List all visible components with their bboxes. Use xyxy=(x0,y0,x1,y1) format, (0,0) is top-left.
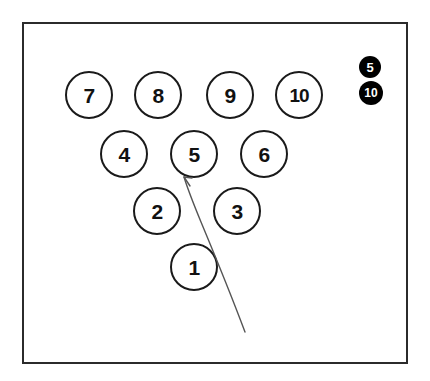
marker-label: 5 xyxy=(366,61,373,74)
pin-5[interactable]: 5 xyxy=(170,130,218,178)
pin-label: 3 xyxy=(231,201,242,222)
pin-label: 8 xyxy=(152,85,163,106)
marker-pin-5[interactable]: 5 xyxy=(359,56,381,78)
pin-7[interactable]: 7 xyxy=(65,71,113,119)
marker-pin-10[interactable]: 10 xyxy=(359,81,383,105)
diagram-stage: 7 8 9 10 4 5 6 2 3 1 xyxy=(0,0,430,381)
pin-1[interactable]: 1 xyxy=(170,243,218,291)
pin-6[interactable]: 6 xyxy=(240,130,288,178)
pin-10[interactable]: 10 xyxy=(275,71,323,119)
pin-label: 7 xyxy=(83,85,94,106)
pin-9[interactable]: 9 xyxy=(206,71,254,119)
pin-8[interactable]: 8 xyxy=(134,71,182,119)
pin-label: 2 xyxy=(151,201,162,222)
pin-label: 1 xyxy=(188,257,199,278)
pin-label: 5 xyxy=(188,144,199,165)
marker-label: 10 xyxy=(364,87,377,99)
pin-4[interactable]: 4 xyxy=(100,130,148,178)
pin-label: 9 xyxy=(224,85,235,106)
pin-label: 4 xyxy=(118,144,129,165)
pin-2[interactable]: 2 xyxy=(133,187,181,235)
pin-3[interactable]: 3 xyxy=(213,187,261,235)
pin-label: 6 xyxy=(258,144,269,165)
pin-deck-frame: 7 8 9 10 4 5 6 2 3 1 xyxy=(22,22,408,364)
pin-label: 10 xyxy=(289,86,308,105)
